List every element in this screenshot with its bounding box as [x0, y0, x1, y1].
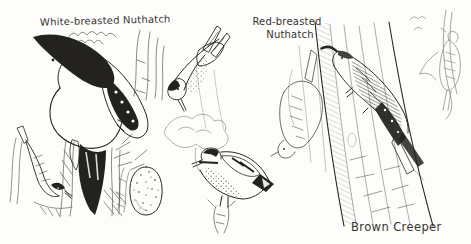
lower-bird-eyestripe	[199, 162, 218, 163]
eye	[52, 59, 55, 62]
small-nuthatch-figure	[10, 126, 72, 217]
label-red-breasted-nuthatch-line2: Nuthatch	[266, 29, 314, 40]
tail	[78, 144, 106, 215]
red-breasted-nuthatch-lower-figure	[192, 148, 274, 233]
red-breasted-nuthatch-section	[164, 26, 326, 233]
lower-bird-breast	[202, 167, 242, 198]
tree-trunk	[315, 22, 433, 226]
upper-bird-beak	[178, 99, 186, 111]
lower-bird-wing	[222, 156, 260, 177]
brown-creeper-section	[315, 10, 460, 226]
label-red-breasted-nuthatch-line1: Red-breasted	[252, 16, 321, 27]
lower-bird-cap	[203, 149, 219, 157]
illustration-canvas: White-breasted Nuthatch Red-breasted Nut…	[0, 0, 471, 244]
lower-bird-legs	[220, 196, 228, 207]
stump-sketch	[164, 114, 228, 172]
egg-outline	[130, 167, 162, 215]
egg-figure	[117, 167, 162, 215]
lower-bird-wing-bars	[232, 158, 254, 172]
creeper-eye	[341, 57, 343, 59]
brown-creeper-small-figure	[410, 10, 460, 119]
upper-bird-eye	[177, 88, 179, 90]
wing-dark-patch	[107, 80, 139, 131]
illustration-plate: White-breasted Nuthatch Red-breasted Nut…	[0, 0, 471, 244]
nest-scribble	[117, 168, 129, 212]
streaky-bird-study-figure	[271, 46, 326, 172]
small-nuthatch-eye	[57, 187, 59, 189]
snag-sketch	[208, 200, 235, 233]
label-brown-creeper: Brown Creeper	[351, 220, 442, 234]
white-breasted-nuthatch-main-figure	[33, 34, 148, 215]
egg-speckles	[134, 171, 159, 210]
white-breasted-nuthatch-section	[10, 30, 164, 217]
creeper-crown	[338, 51, 354, 59]
label-white-breasted-nuthatch: White-breasted Nuthatch	[40, 13, 171, 27]
